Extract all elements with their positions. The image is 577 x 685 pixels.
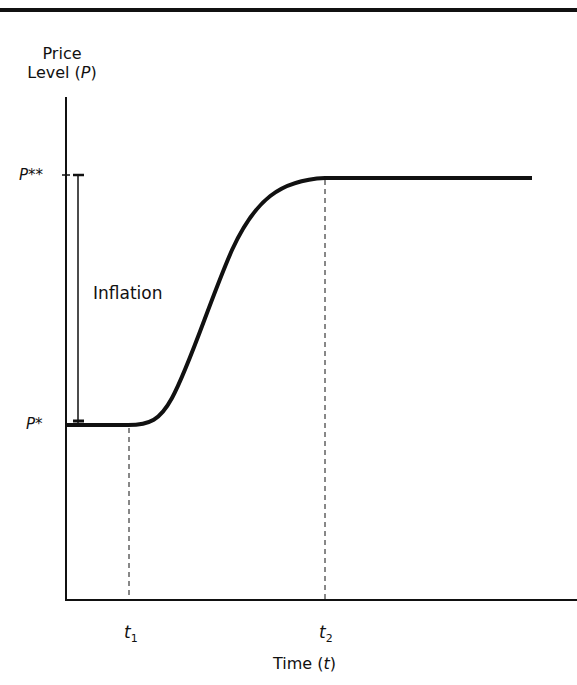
x-tick-t1-sub: 1 (131, 632, 138, 645)
x-tick-t2-sub: 2 (326, 632, 333, 645)
x-axis-label-close: ) (330, 654, 336, 673)
y-axis-label: Price Level (P) (22, 44, 102, 82)
x-axis-label: Time (t) (273, 654, 336, 673)
y-tick-p-star: P* (26, 415, 43, 433)
y-axis-label-line2: Level (P) (22, 63, 102, 82)
y-axis-label-text: Level ( (27, 63, 81, 82)
x-tick-t1: t1 (124, 622, 138, 645)
x-tick-t1-main: t (124, 622, 131, 642)
y-axis-label-line1: Price (22, 44, 102, 63)
chart-canvas (0, 0, 577, 685)
x-axis-label-text: Time ( (273, 654, 323, 673)
x-tick-t2: t2 (319, 622, 333, 645)
y-axis-label-close: ) (90, 63, 96, 82)
x-tick-t2-main: t (319, 622, 326, 642)
inflation-annotation: Inflation (93, 283, 162, 303)
y-tick-p-double-star: P** (19, 166, 43, 184)
